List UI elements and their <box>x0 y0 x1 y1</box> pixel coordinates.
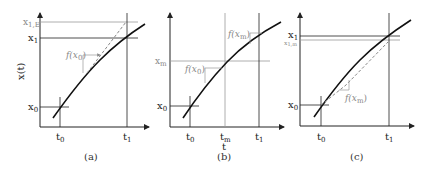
panel-b: f(x0) f(xm) xm x0 t0 tm t1 t (b) <box>155 13 284 162</box>
label-x1E: x1,E <box>23 17 40 29</box>
y-axis-label: x(t) <box>15 62 26 80</box>
caption-a: (a) <box>84 151 98 162</box>
label-t1: t1 <box>385 131 394 144</box>
label-x0: x0 <box>28 101 38 114</box>
slope-label-b0: f(x0) <box>184 64 205 76</box>
slope-label-c: f(xm) <box>344 93 367 105</box>
label-t1: t1 <box>255 131 264 144</box>
euler-step-dashed <box>87 22 126 73</box>
label-t0: t0 <box>186 131 195 144</box>
label-t1: t1 <box>123 131 132 144</box>
label-x0: x0 <box>288 99 298 112</box>
label-x1: x1 <box>28 32 38 45</box>
panel-c: f(xm) x1 x1,m x0 t0 t1 (c) <box>284 13 414 162</box>
caption-c: (c) <box>350 151 364 162</box>
panel-a: f(x0) x1,E x1 x0 x(t) t0 t1 (a) <box>15 13 149 162</box>
label-t0: t0 <box>317 131 326 144</box>
slope-label-bm: f(xm) <box>227 29 250 41</box>
caption-b: (b) <box>217 151 231 162</box>
label-xm: xm <box>155 56 167 68</box>
integration-methods-diagram: f(x0) x1,E x1 x0 x(t) t0 t1 (a) f(x0) f(… <box>0 0 434 171</box>
label-x0: x0 <box>157 100 167 113</box>
label-x1m: x1,m <box>284 39 297 47</box>
label-t0: t0 <box>56 131 65 144</box>
